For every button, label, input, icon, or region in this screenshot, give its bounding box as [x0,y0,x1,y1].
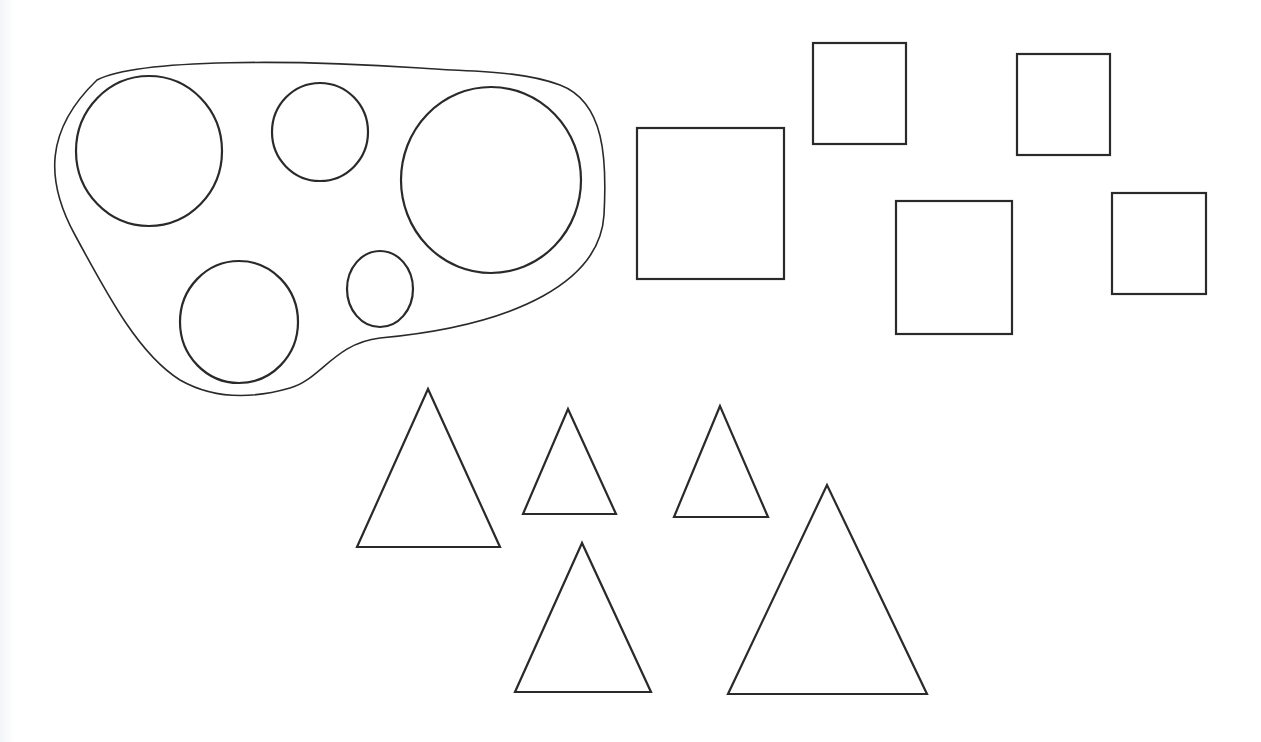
triangles-group [357,389,927,694]
circle-shape [401,87,581,273]
circle-shape [76,76,222,226]
circles-group [76,76,581,383]
circle-shape [180,261,298,383]
rectangle-shape [813,43,906,144]
rectangles-group [637,43,1206,334]
rectangle-shape [896,201,1012,334]
triangle-shape [515,543,651,692]
rectangle-shape [1017,54,1110,155]
enclosing-blob [55,62,605,395]
triangle-shape [357,389,500,547]
rectangle-shape [637,128,784,279]
shapes-diagram [0,0,1261,742]
triangle-shape [523,409,616,514]
triangle-shape [674,406,768,517]
rectangle-shape [1112,193,1206,294]
circle-shape [347,251,413,327]
circle-shape [272,83,368,181]
